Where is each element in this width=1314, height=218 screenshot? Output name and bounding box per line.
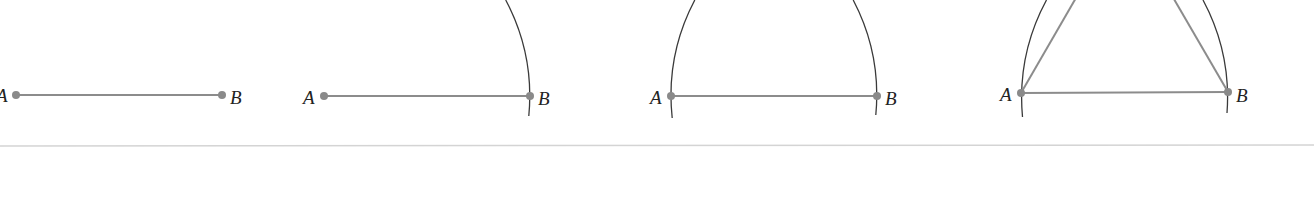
arc-centered-a: [853, 0, 877, 115]
point-b: [526, 92, 534, 100]
label-b: B: [885, 88, 897, 109]
segment-ac: [1021, 0, 1125, 93]
label-a: A: [301, 87, 315, 108]
point-a: [12, 91, 20, 99]
label-b: B: [1236, 85, 1248, 106]
panel-step-1: A B: [0, 85, 242, 108]
arc-centered-b: [671, 0, 695, 118]
label-a: A: [998, 84, 1012, 105]
segment-bc: [1125, 0, 1229, 92]
panel-step-2: A B: [301, 0, 550, 116]
point-b: [873, 92, 881, 100]
label-b: B: [230, 87, 242, 108]
construction-diagram: A B A B A B A B: [0, 0, 1314, 218]
point-a: [1017, 89, 1025, 97]
point-a: [320, 92, 328, 100]
panel-step-3: A B: [648, 0, 897, 118]
segment-ab: [1021, 92, 1228, 93]
label-b: B: [538, 88, 550, 109]
arc-centered-b: [1022, 0, 1047, 117]
point-a: [667, 92, 675, 100]
separator-rule: [0, 145, 1314, 146]
label-a: A: [0, 85, 8, 106]
point-b: [1224, 88, 1232, 96]
point-b: [218, 91, 226, 99]
label-a: A: [648, 87, 662, 108]
arc-centered-a: [506, 0, 530, 116]
panel-step-4: A B: [998, 0, 1248, 117]
